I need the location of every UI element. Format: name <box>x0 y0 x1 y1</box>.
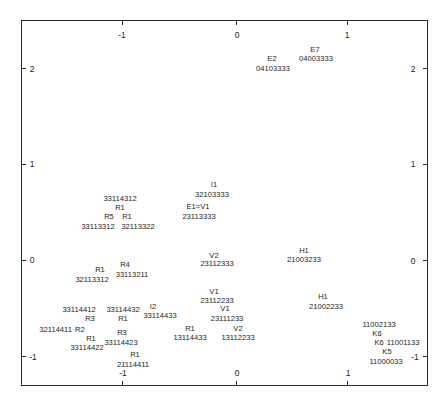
point-name: H1 <box>299 247 309 255</box>
left-tick-label: -1 <box>29 353 37 362</box>
right-tick-mark <box>423 164 427 165</box>
top-tick-label: 0 <box>235 31 240 40</box>
bottom-tick-label: 0 <box>235 369 240 378</box>
point-name: K6 <box>372 330 381 338</box>
point-code: 32113312 <box>75 276 108 284</box>
left-tick-label: 1 <box>30 160 35 169</box>
top-tick-label: -1 <box>118 31 126 40</box>
point-code: 21003233 <box>287 256 321 264</box>
right-tick-mark <box>423 260 427 261</box>
top-tick-mark <box>236 21 237 25</box>
left-tick-mark <box>22 164 26 165</box>
point-code: 33114422 <box>70 344 103 352</box>
point-name: R2 <box>75 325 85 334</box>
top-tick-mark <box>122 21 123 25</box>
point-name: I1 <box>211 181 217 189</box>
point-name: R1 <box>115 204 125 212</box>
point-code: 23113333 <box>182 213 215 221</box>
point-name: H1 <box>318 293 328 301</box>
point-code: 33114412 <box>62 306 95 314</box>
right-tick-mark <box>423 356 427 357</box>
point-code: 13114433 <box>173 334 206 342</box>
point-code: 11002133 <box>362 321 395 329</box>
left-tick-mark <box>22 356 26 357</box>
point-label-inline: K611001133 <box>375 339 420 347</box>
right-tick-label: 1 <box>411 160 416 169</box>
point-code: 04103333 <box>256 65 290 73</box>
point-name: R1 <box>122 213 132 221</box>
bottom-tick-mark <box>347 381 348 385</box>
bottom-tick-mark <box>122 381 123 385</box>
left-tick-mark <box>22 260 26 261</box>
point-code: 33114432 <box>106 306 139 314</box>
point-code: 23111233 <box>211 315 244 323</box>
point-code: 32103333 <box>195 191 229 199</box>
right-tick-label: 2 <box>411 65 416 74</box>
point-name: V2 <box>233 325 242 333</box>
point-name: R1 <box>118 315 128 323</box>
point-name: K5 <box>382 348 391 356</box>
left-tick-label: 2 <box>30 65 35 74</box>
point-name: V1 <box>209 288 218 296</box>
bottom-tick-label: -1 <box>119 369 127 378</box>
point-code: 13112233 <box>221 334 254 342</box>
left-tick-mark <box>22 68 26 69</box>
top-tick-label: 1 <box>345 31 350 40</box>
left-tick-label: 0 <box>30 256 35 265</box>
right-tick-label: 0 <box>411 257 416 266</box>
point-code: 11000033 <box>369 358 402 366</box>
point-code: 33113312 <box>81 223 114 231</box>
point-code: 32114411 <box>39 325 72 334</box>
point-name: R1 <box>130 351 140 359</box>
point-code: 21002233 <box>309 303 343 311</box>
top-tick-mark <box>347 21 348 25</box>
point-name: E7 <box>310 46 319 54</box>
point-code: 33114433 <box>143 312 176 320</box>
point-name: R5 <box>104 213 114 221</box>
point-code: 32113322 <box>121 223 154 231</box>
point-name: R1 <box>185 325 195 333</box>
point-code: 11001133 <box>387 338 420 347</box>
point-name: R1 <box>95 266 105 274</box>
point-name: R3 <box>85 315 95 323</box>
point-name: R1 <box>86 335 96 343</box>
point-name: K6 <box>375 338 384 347</box>
point-code: 33114312 <box>103 195 136 203</box>
point-code: 33113211 <box>116 271 149 279</box>
point-name: E2 <box>267 55 276 63</box>
point-name: R4 <box>120 261 130 269</box>
bottom-tick-mark <box>236 381 237 385</box>
point-code: 33114423 <box>104 339 137 347</box>
point-code: 04003333 <box>299 55 333 63</box>
right-tick-mark <box>423 68 427 69</box>
point-code: 21114411 <box>117 361 149 369</box>
point-name: R3 <box>117 329 127 337</box>
point-name: E1=V1 <box>186 203 209 211</box>
point-label-inline: 32114411R2 <box>39 326 84 334</box>
point-code: 23112333 <box>200 260 233 268</box>
point-name: V1 <box>220 305 229 313</box>
bottom-tick-label: 1 <box>346 369 351 378</box>
right-tick-label: -1 <box>411 353 419 362</box>
point-name: I2 <box>150 303 156 311</box>
